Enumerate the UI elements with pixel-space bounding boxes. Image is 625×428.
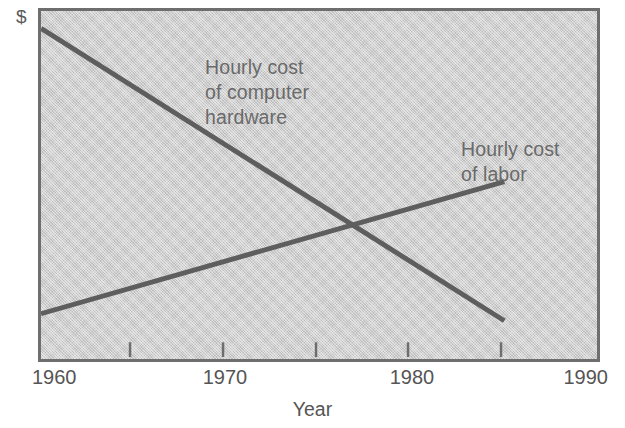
series-annotation-hardware: Hourly cost of computer hardware [205,55,309,130]
x-axis-minor-ticks [130,342,501,357]
series-annotation-labor: Hourly cost of labor [461,137,560,187]
x-tick-label-1980: 1980 [390,366,435,389]
x-tick-label-1960: 1960 [32,366,77,389]
x-tick-label-1990: 1990 [564,366,609,389]
chart-figure: $ Dollar costs Hourly cost of computer h… [0,0,625,428]
x-axis-title: Year [0,398,625,421]
plot-area: Hourly cost of computer hardware Hourly … [38,8,600,362]
y-axis-unit-symbol: $ [16,6,27,28]
x-tick-label-1970: 1970 [203,366,248,389]
series-line-labor [41,182,504,314]
